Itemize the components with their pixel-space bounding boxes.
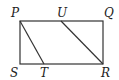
segment-ur xyxy=(61,21,103,64)
label-p: P xyxy=(10,6,20,20)
segment-pt xyxy=(20,21,44,64)
label-r: R xyxy=(100,66,110,80)
label-q: Q xyxy=(104,6,114,20)
label-u: U xyxy=(57,6,68,20)
label-t: T xyxy=(40,66,49,80)
label-s: S xyxy=(10,66,18,80)
geometry-diagram: P U Q S T R xyxy=(0,0,119,80)
